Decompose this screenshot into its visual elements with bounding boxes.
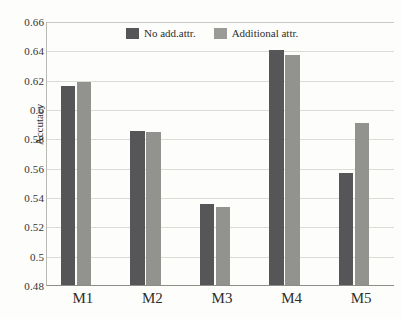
- bar-M4-additional-attr: [285, 55, 300, 285]
- y-axis-tick-label: 0.66: [0, 17, 44, 28]
- y-axis-title: Accutacy: [34, 80, 45, 170]
- x-axis-tick-label-M2: M2: [122, 290, 182, 306]
- gridline: [47, 110, 394, 111]
- bar-chart-figure: Accutacy 0.480.50.520.540.560.580.60.620…: [0, 0, 402, 319]
- legend-swatch-icon: [214, 28, 227, 39]
- y-axis-tick-label: 0.5: [0, 251, 44, 262]
- x-axis-tick-label-M5: M5: [331, 290, 391, 306]
- x-axis-tick-label-M4: M4: [262, 290, 322, 306]
- x-axis-tick-label-M1: M1: [53, 290, 113, 306]
- y-axis-tick-label: 0.64: [0, 46, 44, 57]
- legend-label: No add.attr.: [144, 28, 196, 39]
- y-axis-tick-label: 0.6: [0, 105, 44, 116]
- plot-area: [46, 22, 394, 286]
- y-axis-tick-label: 0.56: [0, 163, 44, 174]
- bar-M4-no-add-attr: [269, 50, 284, 285]
- chart-legend: No add.attr.Additional attr.: [126, 28, 298, 39]
- bar-M5-additional-attr: [355, 123, 370, 286]
- gridline: [47, 51, 394, 52]
- y-axis-tick-label: 0.52: [0, 222, 44, 233]
- bar-M1-additional-attr: [77, 82, 92, 285]
- bar-M1-no-add-attr: [61, 86, 76, 285]
- y-axis-tick-label: 0.58: [0, 134, 44, 145]
- bar-M3-no-add-attr: [200, 204, 215, 285]
- x-axis-tick-label-M3: M3: [192, 290, 252, 306]
- bar-M2-no-add-attr: [130, 131, 145, 285]
- gridline: [47, 169, 394, 170]
- gridline: [47, 139, 394, 140]
- legend-entry-no-add-attr: No add.attr.: [126, 28, 196, 39]
- y-axis-tick-label: 0.48: [0, 281, 44, 292]
- y-axis-tick-label: 0.54: [0, 193, 44, 204]
- legend-entry-additional-attr: Additional attr.: [214, 28, 299, 39]
- bar-M5-no-add-attr: [339, 173, 354, 285]
- gridline: [47, 22, 394, 23]
- bar-M3-additional-attr: [216, 207, 231, 285]
- y-axis-tick-label: 0.62: [0, 75, 44, 86]
- legend-label: Additional attr.: [232, 28, 299, 39]
- legend-swatch-icon: [126, 28, 139, 39]
- gridline: [47, 81, 394, 82]
- bar-M2-additional-attr: [146, 132, 161, 285]
